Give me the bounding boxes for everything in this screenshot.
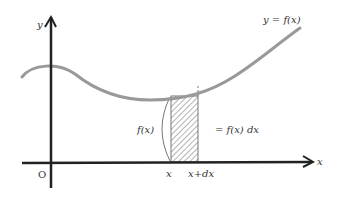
origin-label: O — [38, 169, 46, 180]
area-under-curve-diagram: y x O y = f(x) f(x) = f(x) dx x x+dx — [0, 0, 343, 198]
function-curve — [22, 28, 300, 100]
y-axis-label: y — [36, 19, 43, 30]
area-label: = f(x) dx — [215, 124, 259, 135]
x-tick-label: x — [166, 168, 172, 179]
curve-label: y = f(x) — [262, 14, 301, 25]
diagram-svg: y x O y = f(x) f(x) = f(x) dx x x+dx — [0, 0, 343, 198]
height-bracket — [162, 97, 170, 161]
x-axis — [22, 156, 313, 167]
x-plus-dx-tick-label: x+dx — [188, 168, 214, 179]
height-label: f(x) — [136, 124, 154, 135]
x-axis-label: x — [317, 156, 323, 167]
